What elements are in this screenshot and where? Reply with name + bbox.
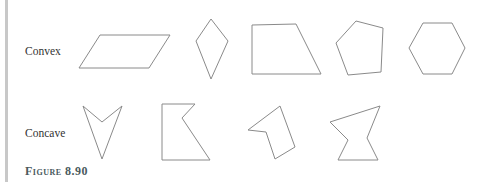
concave-shapes <box>83 104 380 160</box>
figure-shapes <box>0 0 486 182</box>
kite-shape <box>196 19 228 79</box>
figure-caption-label: Figure 8.90 <box>25 164 88 179</box>
hexagon-shape <box>409 23 465 74</box>
arrowhead-shape <box>83 106 122 159</box>
parallelogram-shape <box>79 35 170 68</box>
pentagon-shape <box>336 21 383 75</box>
notched-pentagon-shape <box>248 106 295 159</box>
convex-shapes <box>79 19 465 79</box>
notched-quadrilateral-shape <box>162 104 210 160</box>
trapezoid-shape <box>252 24 321 74</box>
bowtie-hexagon-shape <box>330 106 380 160</box>
